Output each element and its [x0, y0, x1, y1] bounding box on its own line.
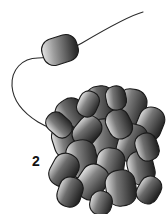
figure-canvas: 2 — [0, 0, 166, 214]
single-bacterium-cell — [39, 32, 82, 69]
figure-number-label: 2 — [32, 154, 40, 168]
bacteria-illustration — [0, 0, 166, 214]
bacterial-cell-cluster — [42, 84, 166, 214]
bacterium-body — [39, 32, 82, 69]
